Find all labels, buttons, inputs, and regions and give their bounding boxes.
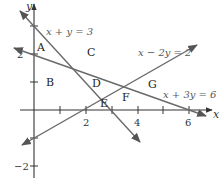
region-label-f: F bbox=[122, 91, 130, 104]
coordinate-plane: 2 4 6 2 −2 x y x + y = 3 x − 2y = 2 x + … bbox=[0, 0, 222, 181]
equation-label-1: x + y = 3 bbox=[46, 26, 93, 37]
x-tick-label-4: 4 bbox=[134, 117, 140, 128]
region-label-c: C bbox=[87, 46, 95, 59]
region-label-e: E bbox=[100, 97, 108, 110]
region-label-b: B bbox=[46, 76, 54, 89]
equation-label-2: x − 2y = 2 bbox=[138, 47, 192, 58]
x-axis-label: x bbox=[213, 108, 220, 121]
region-label-d: D bbox=[92, 77, 101, 90]
y-tick-label-neg2: −2 bbox=[14, 161, 29, 172]
region-label-g: G bbox=[148, 78, 157, 91]
x-tick-label-2: 2 bbox=[83, 117, 89, 128]
x-tick-label-6: 6 bbox=[185, 117, 191, 128]
line-x-plus-3y-eq-6 bbox=[14, 48, 206, 116]
region-label-a: A bbox=[36, 41, 46, 54]
equation-label-3: x + 3y = 6 bbox=[163, 89, 217, 100]
y-axis-label: y bbox=[25, 0, 33, 13]
